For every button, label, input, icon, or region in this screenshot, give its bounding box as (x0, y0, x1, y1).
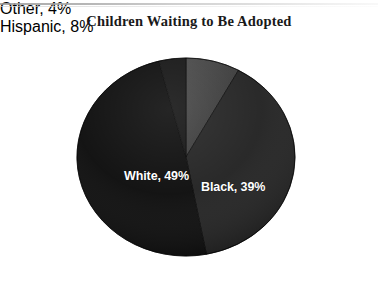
chart-title: Children Waiting to Be Adopted (0, 13, 378, 30)
scan-artifact-line (0, 3, 378, 5)
pie-sheen-overlay (77, 58, 295, 256)
pie-graphic (76, 57, 296, 257)
scan-artifact-line-secondary (0, 6, 378, 7)
slice-label-black: Black, 39% (201, 180, 265, 194)
pie-chart-figure: Children Waiting to Be Adopted Other, 4%… (0, 0, 378, 281)
pie-svg (76, 57, 296, 257)
slice-label-white: White, 49% (124, 169, 189, 183)
